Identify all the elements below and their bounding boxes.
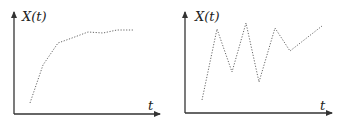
left-x-label: t [148, 98, 154, 113]
right-panel: X(t) t [185, 9, 332, 113]
right-y-label: X(t) [194, 9, 220, 24]
diagram-canvas: X(t) t X(t) t [0, 0, 338, 122]
left-y-label: X(t) [21, 9, 47, 24]
right-curve [202, 23, 322, 100]
left-panel: X(t) t [14, 9, 160, 114]
right-x-label: t [320, 98, 326, 113]
left-curve [30, 30, 133, 103]
